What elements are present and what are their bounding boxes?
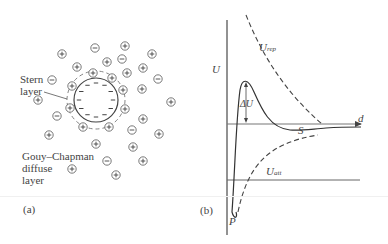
- cation-icon: [121, 105, 129, 113]
- cation-icon: [139, 157, 147, 165]
- panel-b-label: (b): [200, 204, 213, 216]
- cation-icon: [167, 98, 175, 106]
- panel-b-potential-curve: [227, 15, 362, 235]
- cation-icon: [119, 86, 127, 94]
- cation-icon: [155, 130, 163, 138]
- repulsion-label-sub: rep: [267, 45, 276, 53]
- gouy-label-line3: layer: [22, 174, 94, 186]
- repulsion-label: Urep: [259, 41, 276, 55]
- cation-icon: [138, 85, 146, 93]
- cation-icon: [129, 143, 137, 151]
- x-axis-label: d: [358, 112, 364, 124]
- cation-icon: [79, 123, 87, 131]
- figure: Stern layer Gouy–Chapman diffuse layer (…: [0, 0, 388, 244]
- stern-label-line2: layer: [20, 85, 43, 97]
- anion-icon: [103, 157, 111, 165]
- stern-leader-line: [44, 92, 67, 99]
- gouy-label-line1: Gouy–Chapman: [22, 150, 94, 162]
- cation-icon: [121, 42, 129, 50]
- anion-icon: [118, 55, 126, 63]
- cation-icon: [105, 123, 113, 131]
- anion-icon: [48, 76, 56, 84]
- cation-icon: [103, 58, 111, 66]
- cation-icon: [45, 131, 53, 139]
- panel-a-label: (a): [23, 203, 35, 215]
- cation-icon: [73, 63, 81, 71]
- repulsion-curve: [246, 15, 322, 124]
- secondary-minimum-label: S: [298, 124, 304, 136]
- attraction-label-main: U: [266, 165, 274, 177]
- bottom-divider: [0, 196, 388, 197]
- stern-label-line1: Stern: [20, 73, 43, 85]
- cation-icon: [58, 50, 66, 58]
- cation-icon: [66, 104, 74, 112]
- anion-icon: [53, 112, 61, 120]
- cation-icon: [89, 69, 97, 77]
- gouy-chapman-label: Gouy–Chapman diffuse layer: [22, 150, 94, 186]
- y-axis-label: U: [212, 63, 220, 75]
- cation-icon: [139, 64, 147, 72]
- gouy-label-line2: diffuse: [22, 162, 94, 174]
- cation-icon: [92, 140, 100, 148]
- stern-layer-label: Stern layer: [20, 73, 43, 97]
- repulsion-label-main: U: [259, 41, 267, 53]
- cation-icon: [112, 171, 120, 179]
- cation-icon: [34, 96, 42, 104]
- cation-icon: [139, 115, 147, 123]
- delta-u-arrowhead-top-icon: [244, 82, 248, 87]
- cation-icon: [148, 50, 156, 58]
- figure-canvas: [0, 0, 388, 244]
- anion-icon: [128, 126, 136, 134]
- cation-icon: [68, 82, 76, 90]
- cation-icon: [108, 74, 116, 82]
- delta-u-label: ΔU: [240, 98, 253, 110]
- anion-icon: [154, 75, 162, 83]
- delta-u-arrowhead-bottom-icon: [244, 118, 248, 123]
- primary-minimum-label: P: [229, 215, 236, 227]
- cation-icon: [123, 69, 131, 77]
- attraction-label: Uatt: [266, 165, 281, 179]
- surface-charges: [77, 83, 115, 117]
- stern-layer-boundary: [67, 71, 125, 129]
- attraction-label-sub: att: [274, 169, 281, 177]
- anion-icon: [91, 44, 99, 52]
